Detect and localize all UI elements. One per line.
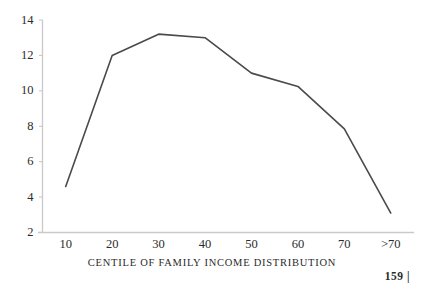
- line-chart-figure: 1412108642 10203040506070>70 CENTILE OF …: [0, 0, 424, 290]
- x-axis-tick-label: 20: [92, 238, 132, 251]
- x-axis-tick-label: 30: [139, 238, 179, 251]
- y-axis-tick-label: 14: [10, 14, 34, 27]
- x-axis-tick-label: 50: [231, 238, 271, 251]
- x-axis-title: CENTILE OF FAMILY INCOME DISTRIBUTION: [0, 257, 424, 268]
- page-number: 159 |: [385, 270, 410, 282]
- x-axis-tick-label: >70: [371, 238, 411, 251]
- figure-page: 1412108642 10203040506070>70 CENTILE OF …: [0, 0, 424, 290]
- x-axis-tick-label: 60: [278, 238, 318, 251]
- x-axis-tick-label: 40: [185, 238, 225, 251]
- data-series-line: [66, 34, 391, 213]
- y-axis-tick-label: 12: [10, 49, 34, 62]
- x-axis-tick-label: 70: [324, 238, 364, 251]
- y-axis-tick-label: 10: [10, 84, 34, 97]
- y-axis-tick-label: 4: [10, 191, 34, 204]
- y-axis-tick-label: 6: [10, 155, 34, 168]
- x-axis-tick-label: 10: [46, 238, 86, 251]
- y-axis-tick-label: 8: [10, 120, 34, 133]
- y-axis-tick-label: 2: [10, 226, 34, 239]
